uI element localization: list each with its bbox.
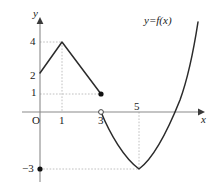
- graph-figure: y x y=f(x) 4 2 1 −3 O 1 3 5: [0, 0, 214, 190]
- x-tick-label-1: 1: [59, 115, 65, 126]
- y-tick-label-minus-3: −3: [22, 163, 34, 174]
- axes: [22, 24, 198, 182]
- x-tick-label-5: 5: [134, 101, 140, 112]
- y-axis-label: y: [33, 8, 38, 19]
- function-label: y=f(x): [144, 15, 172, 26]
- minimum-axis-dot: [37, 166, 42, 171]
- x-tick-label-3: 3: [98, 115, 104, 126]
- x-axis-label: x: [201, 114, 206, 125]
- y-tick-label-4: 4: [30, 36, 36, 47]
- linear-branch: [40, 42, 101, 94]
- parabola-branch: [101, 22, 198, 169]
- y-tick-label-2: 2: [30, 70, 36, 81]
- closed-endpoint-dot: [98, 91, 103, 96]
- origin-label: O: [32, 115, 40, 126]
- y-tick-label-1: 1: [31, 87, 37, 98]
- guide-lines: [40, 42, 139, 169]
